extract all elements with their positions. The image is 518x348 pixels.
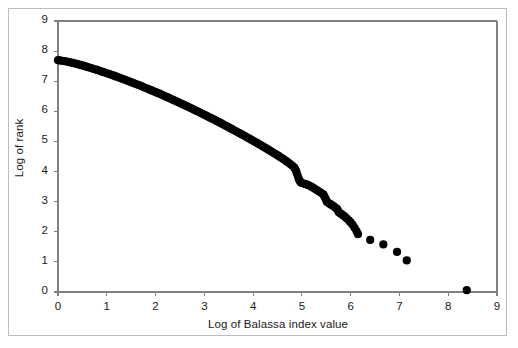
- x-tick-label-3: 3: [192, 300, 216, 312]
- data-point: [366, 236, 374, 244]
- x-tick-label-9: 9: [485, 300, 509, 312]
- y-tick-label-0: 0: [24, 284, 48, 296]
- y-tick-label-7: 7: [24, 73, 48, 85]
- data-point: [393, 248, 401, 256]
- figure-container: Log of Balassa index value Log of rank 0…: [0, 0, 518, 348]
- scatter-plot-svg: [0, 0, 518, 348]
- y-tick-label-5: 5: [24, 133, 48, 145]
- data-point: [379, 240, 387, 248]
- y-tick-label-4: 4: [24, 164, 48, 176]
- x-tick-label-0: 0: [46, 300, 70, 312]
- x-tick-label-1: 1: [95, 300, 119, 312]
- x-tick-label-6: 6: [339, 300, 363, 312]
- data-point: [463, 286, 471, 294]
- data-point: [354, 230, 362, 238]
- chart-plot-area: Log of Balassa index value Log of rank 0…: [0, 0, 518, 348]
- x-tick-label-8: 8: [436, 300, 460, 312]
- y-tick-label-2: 2: [24, 224, 48, 236]
- x-tick-label-7: 7: [387, 300, 411, 312]
- y-tick-label-3: 3: [24, 194, 48, 206]
- x-tick-label-4: 4: [241, 300, 265, 312]
- x-tick-label-5: 5: [290, 300, 314, 312]
- data-point: [403, 256, 411, 264]
- data-points-group: [54, 56, 471, 294]
- y-tick-label-6: 6: [24, 103, 48, 115]
- x-axis-title: Log of Balassa index value: [58, 318, 498, 330]
- y-tick-label-9: 9: [24, 13, 48, 25]
- y-tick-label-8: 8: [24, 43, 48, 55]
- x-tick-label-2: 2: [144, 300, 168, 312]
- y-tick-label-1: 1: [24, 254, 48, 266]
